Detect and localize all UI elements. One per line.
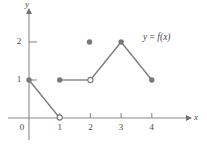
x-tick-label-3: 3	[116, 123, 126, 132]
y-tick-label-2: 2	[14, 37, 24, 46]
closed-point-4-1	[149, 77, 154, 82]
open-point-1-0	[57, 115, 62, 120]
origin-tick-label: 0	[17, 123, 27, 132]
closed-point-2-2	[87, 39, 92, 44]
y-axis	[26, 8, 32, 140]
y-tick-marks	[29, 42, 37, 80]
y-tick-label-1: 1	[14, 75, 24, 84]
closed-point-0-1	[26, 77, 31, 82]
curve-equation-label: y = f(x)	[143, 33, 171, 43]
equation-rhs: f(x)	[157, 32, 170, 42]
x-tick-label-2: 2	[85, 123, 95, 132]
function-markers	[26, 39, 154, 120]
segment-2-to-3	[90, 42, 121, 80]
closed-point-1-1	[57, 77, 62, 82]
function-graph-figure: y x 0 1 2 1 2 3 4 y = f(x)	[0, 0, 207, 145]
open-point-2-1	[88, 77, 93, 82]
segment-3-to-4	[121, 42, 152, 80]
y-axis-label: y	[25, 0, 29, 9]
x-tick-label-1: 1	[55, 123, 65, 132]
x-axis-label: x	[194, 113, 198, 122]
x-tick-marks	[60, 113, 152, 118]
x-tick-label-4: 4	[147, 123, 157, 132]
segment-0-to-1	[29, 80, 60, 118]
closed-point-3-2	[118, 39, 123, 44]
x-axis	[8, 115, 192, 121]
equation-equals: =	[147, 32, 157, 42]
plot-canvas	[0, 0, 207, 145]
